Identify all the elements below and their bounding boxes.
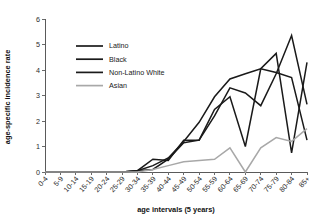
x-tick-label: 85+ bbox=[297, 174, 312, 189]
x-tick-label: 50-54 bbox=[185, 174, 204, 194]
x-tick-label: 45-49 bbox=[169, 174, 188, 194]
y-tick-label: 3 bbox=[36, 91, 40, 100]
legend-label-black: Black bbox=[109, 55, 127, 64]
line-chart-canvas: 0123456 0-45-910-1415-1920-2425-2930-343… bbox=[0, 0, 319, 221]
y-axis: 0123456 bbox=[36, 15, 45, 177]
y-axis-title: age-specific incidence rate bbox=[3, 50, 12, 144]
y-tick-label: 0 bbox=[36, 168, 40, 177]
x-tick-label: 30-34 bbox=[123, 174, 142, 194]
y-tick-label: 2 bbox=[36, 117, 40, 126]
x-tick-label: 40-44 bbox=[154, 174, 173, 194]
x-tick-label: 25-29 bbox=[108, 174, 127, 194]
y-tick-label: 6 bbox=[36, 15, 40, 24]
x-tick-label: 70-74 bbox=[246, 174, 265, 194]
x-tick-label: 15-19 bbox=[77, 174, 96, 194]
data-series-group bbox=[45, 36, 307, 172]
series-line-black bbox=[45, 36, 307, 172]
y-tick-label: 1 bbox=[36, 142, 40, 151]
legend-label-non-latino-white: Non-Latino White bbox=[109, 68, 165, 77]
x-tick-label: 60-64 bbox=[216, 174, 235, 194]
legend-label-latino: Latino bbox=[109, 41, 129, 50]
x-axis-title: age intervals (5 years) bbox=[137, 205, 215, 214]
chart-legend: LatinoBlackNon-Latino WhiteAsian bbox=[76, 41, 165, 90]
x-tick-label: 10-14 bbox=[62, 174, 81, 194]
x-axis: 0-45-910-1415-1920-2425-2930-3435-3940-4… bbox=[36, 172, 312, 194]
y-tick-label: 4 bbox=[36, 66, 40, 75]
series-line-non-latino-white bbox=[45, 69, 307, 172]
x-tick-label: 80-84 bbox=[277, 174, 296, 194]
x-tick-label: 75-79 bbox=[262, 174, 281, 194]
x-tick-label: 35-39 bbox=[139, 174, 158, 194]
legend-label-asian: Asian bbox=[109, 81, 127, 90]
x-tick-label: 65-69 bbox=[231, 174, 250, 194]
y-tick-label: 5 bbox=[36, 40, 40, 49]
x-tick-label: 20-24 bbox=[92, 174, 111, 194]
chart-figure: 0123456 0-45-910-1415-1920-2425-2930-343… bbox=[0, 0, 319, 221]
x-tick-label: 55-59 bbox=[200, 174, 219, 194]
